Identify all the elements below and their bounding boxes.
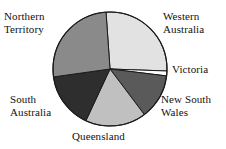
pie-label-victoria: Victoria [172,63,208,76]
pie-slice-group [53,12,167,126]
pie-label-new-south-wales: New South Wales [161,93,211,118]
pie-label-western-australia: Western Australia [163,10,204,35]
pie-slice-northern-territory [53,12,110,77]
pie-slice-western-australia [106,12,167,71]
pie-label-queensland: Queensland [72,130,125,143]
pie-label-south-australia: South Australia [10,93,51,118]
pie-chart-figure: Northern Territory Western Australia Vic… [0,0,226,149]
pie-label-northern-territory: Northern Territory [4,10,45,35]
